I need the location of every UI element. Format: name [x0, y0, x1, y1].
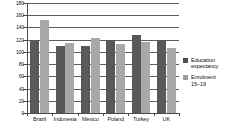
- bar-chart: 180160140120100806040200 BrazilIndonesia…: [0, 0, 234, 135]
- chart-legend: Education expectancy Enrolment 15–19: [183, 57, 233, 92]
- x-axis-tick-labels: BrazilIndonesiaMexicoPolandTurkeyUK: [27, 115, 180, 127]
- x-axis-tick-label: Mexico: [78, 116, 103, 122]
- legend-item-education-expectancy: Education expectancy: [183, 57, 233, 69]
- y-axis-tick-label: 0: [2, 110, 24, 116]
- y-axis-tick-label: 120: [2, 37, 24, 43]
- x-axis-tick-label: Turkey: [128, 116, 153, 122]
- bar: [157, 40, 166, 113]
- y-axis-tick-label: 140: [2, 24, 24, 30]
- x-axis-tick-label: Poland: [103, 116, 128, 122]
- legend-label-series-0: Education expectancy: [191, 57, 233, 69]
- bar-group: [52, 3, 77, 113]
- legend-swatch-icon-series-0: [183, 58, 188, 63]
- y-axis-tick-label: 40: [2, 86, 24, 92]
- bar: [65, 43, 74, 113]
- bar: [106, 40, 115, 113]
- bar: [91, 38, 100, 113]
- x-axis-tick-label: Brazil: [27, 116, 52, 122]
- x-axis-tick-mark: [27, 113, 28, 116]
- bar-group: [78, 3, 103, 113]
- y-axis-tick-label: 60: [2, 73, 24, 79]
- x-axis-tick-mark: [78, 113, 79, 116]
- bar: [141, 42, 150, 114]
- y-axis-tick-label: 160: [2, 12, 24, 18]
- bar-group: [103, 3, 128, 113]
- bar: [56, 46, 65, 113]
- x-axis-tick-mark: [103, 113, 104, 116]
- bar-group: [154, 3, 179, 113]
- bar: [167, 48, 176, 113]
- x-axis-tick-label: Indonesia: [52, 116, 77, 122]
- bar: [30, 40, 39, 113]
- bar: [132, 35, 141, 113]
- x-axis-tick-label: UK: [154, 116, 179, 122]
- bar-group: [27, 3, 52, 113]
- y-axis-tick-label: 20: [2, 98, 24, 104]
- y-axis-tick-label: 180: [2, 0, 24, 6]
- x-axis-tick-mark: [154, 113, 155, 116]
- y-axis-tick-label: 80: [2, 61, 24, 67]
- bar: [81, 46, 90, 113]
- bar: [116, 44, 125, 113]
- bar-group: [128, 3, 153, 113]
- legend-label-series-1: Enrolment 15–19: [191, 74, 233, 86]
- x-axis-tick-mark: [52, 113, 53, 116]
- y-axis-tick-label: 100: [2, 49, 24, 55]
- x-axis-tick-mark: [128, 113, 129, 116]
- bar-groups: [27, 3, 179, 113]
- legend-item-enrolment-15-19: Enrolment 15–19: [183, 74, 233, 86]
- legend-swatch-icon-series-1: [183, 75, 188, 80]
- bar: [40, 20, 49, 114]
- x-axis-tick-mark: [179, 113, 180, 116]
